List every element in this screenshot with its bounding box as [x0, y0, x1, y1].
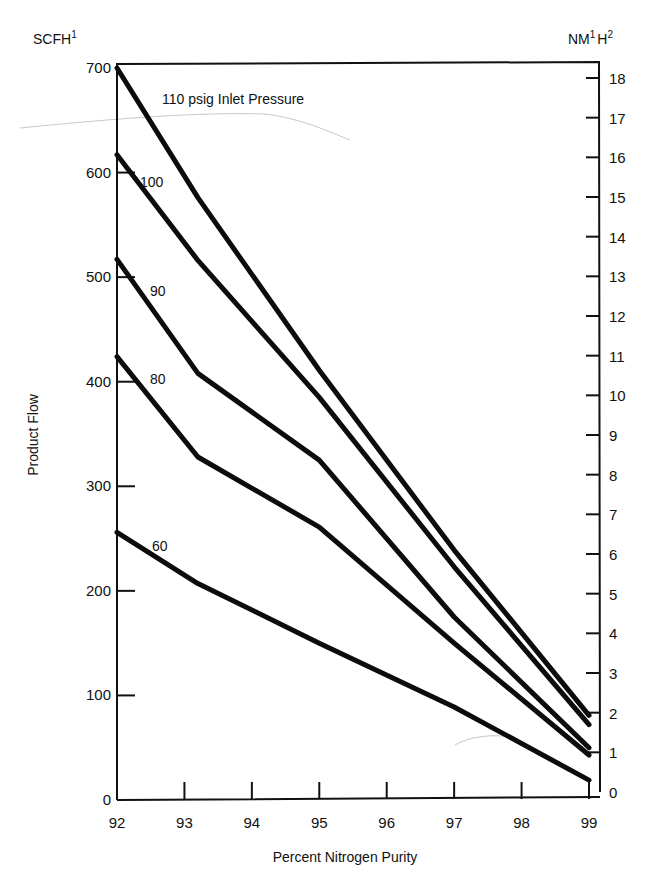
right-tick-label: 10	[609, 387, 626, 404]
scan-artifact-curve	[20, 114, 350, 140]
left-tick-label: 100	[86, 686, 111, 703]
left-tick-label: 0	[103, 791, 111, 808]
x-tick-label: 99	[581, 814, 598, 831]
right-tick-label: 11	[609, 348, 625, 365]
right-tick-label: 8	[609, 467, 617, 484]
right-tick-label: 6	[609, 546, 617, 563]
right-tick-label: 2	[609, 705, 617, 722]
left-tick-label: 400	[86, 373, 111, 390]
series-label: 60	[152, 538, 168, 554]
left-unit-label: SCFH1	[33, 29, 77, 47]
series-line	[117, 259, 589, 747]
series-label: 80	[150, 371, 166, 387]
series-line	[117, 155, 589, 725]
right-tick-label: 4	[609, 625, 617, 642]
series-label: 110 psig Inlet Pressure	[162, 91, 304, 107]
left-tick-label: 600	[86, 164, 111, 181]
series-label: 100	[140, 174, 164, 190]
left-tick-label: 500	[86, 268, 111, 285]
left-tick-label: 300	[86, 477, 111, 494]
x-tick-label: 95	[311, 814, 328, 831]
x-tick-label: 94	[244, 814, 261, 831]
right-tick-label: 7	[609, 506, 617, 523]
right-tick-label: 0	[609, 784, 617, 801]
right-tick-label: 12	[609, 308, 626, 325]
series-lines	[117, 68, 589, 780]
right-tick-label: 9	[609, 427, 617, 444]
x-tick-label: 92	[109, 814, 126, 831]
y-axis-title: Product Flow	[25, 393, 41, 476]
series-line	[117, 532, 589, 780]
x-tick-label: 98	[513, 814, 530, 831]
product-flow-chart: SCFH1 NM1H2 0100200300400500600700 01234…	[0, 0, 656, 886]
right-tick-label: 3	[609, 665, 617, 682]
right-tick-label: 1	[609, 744, 617, 761]
right-y-axis: 0123456789101112131415161718	[586, 70, 626, 801]
left-tick-label: 200	[86, 582, 111, 599]
right-unit-label: NM1H2	[568, 29, 613, 47]
x-axis-title: Percent Nitrogen Purity	[273, 849, 418, 865]
right-tick-label: 13	[609, 268, 626, 285]
right-tick-label: 5	[609, 586, 617, 603]
right-tick-label: 16	[609, 149, 626, 166]
scan-artifact-arc	[455, 736, 510, 745]
right-tick-label: 15	[609, 189, 626, 206]
series-label: 90	[150, 283, 166, 299]
x-axis: 9293949596979899	[109, 782, 598, 831]
left-tick-label: 700	[86, 59, 111, 76]
x-tick-label: 93	[176, 814, 193, 831]
right-tick-label: 18	[609, 70, 626, 87]
right-tick-label: 17	[609, 110, 626, 127]
x-tick-label: 96	[378, 814, 395, 831]
right-tick-label: 14	[609, 229, 626, 246]
series-line	[117, 68, 589, 715]
x-tick-label: 97	[446, 814, 463, 831]
